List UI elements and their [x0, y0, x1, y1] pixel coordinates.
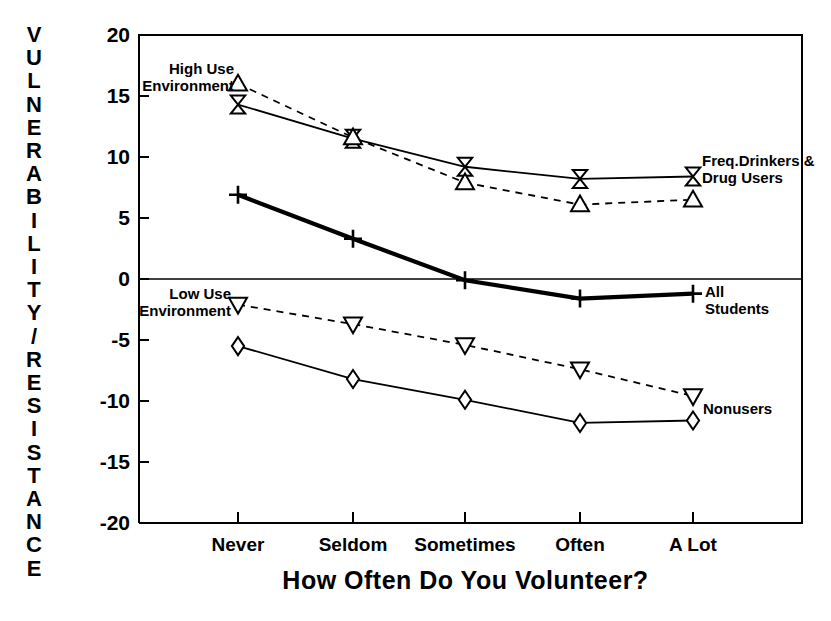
data-point-triangle-down-marker	[684, 389, 702, 405]
x-tick-label: Never	[212, 534, 265, 555]
data-point-triangle-up-marker	[684, 191, 702, 207]
x-tick-label: A Lot	[669, 534, 718, 555]
annotation-line: High Use	[169, 60, 234, 77]
data-point-plus-marker	[229, 186, 247, 204]
y-axis-label-char: L	[27, 68, 40, 93]
x-tick-label: Often	[555, 534, 605, 555]
y-axis-label-char: N	[26, 92, 42, 117]
y-axis-label-char: A	[26, 486, 42, 511]
y-axis-label-char: U	[26, 45, 42, 70]
y-axis-label-char: I	[31, 208, 37, 233]
data-point-diamond-marker	[232, 337, 244, 355]
y-axis-label-char: S	[27, 440, 42, 465]
annotation-line: Freq.Drinkers &	[702, 152, 815, 169]
y-tick-label: 20	[107, 23, 130, 46]
annotation-line: Environment	[142, 77, 234, 94]
y-axis-label-char: B	[26, 184, 42, 209]
y-axis-label-char: C	[26, 532, 42, 557]
x-tick-label: Seldom	[319, 534, 388, 555]
y-axis-label-char: I	[31, 254, 37, 279]
y-axis-label-char: S	[27, 393, 42, 418]
x-axis-title: How Often Do You Volunteer?	[282, 566, 648, 594]
data-point-plus-marker	[684, 285, 702, 303]
data-point-plus-marker	[456, 271, 474, 289]
y-axis-label-char: Y	[27, 300, 42, 325]
line-chart: VULNERABILITY/RESISTANCE 20151050-5-10-1…	[0, 0, 831, 621]
data-point-plus-marker	[344, 230, 362, 248]
y-axis-label-char: R	[26, 138, 42, 163]
annotation-label: Nonusers	[703, 400, 772, 417]
y-axis-label: VULNERABILITY/RESISTANCE	[26, 22, 42, 581]
data-point-diamond-marker	[574, 414, 586, 432]
series-4	[229, 298, 702, 405]
y-tick-label: -15	[100, 450, 131, 473]
y-axis-label-char: E	[27, 556, 42, 581]
annotation-label: High UseEnvironment	[142, 60, 234, 94]
data-point-diamond-marker	[687, 412, 699, 430]
y-axis-label-char: E	[27, 115, 42, 140]
series-2	[229, 75, 702, 212]
annotation-label: AllStudents	[705, 283, 769, 317]
y-tick-label: 0	[118, 267, 130, 290]
data-point-plus-marker	[571, 290, 589, 308]
y-tick-label: 15	[107, 84, 131, 107]
chart-container: VULNERABILITY/RESISTANCE 20151050-5-10-1…	[0, 0, 831, 621]
series-line	[238, 346, 693, 423]
y-axis-label-char: L	[27, 231, 40, 256]
annotation-label: Freq.Drinkers &Drug Users	[702, 152, 815, 186]
y-axis-label-char: E	[27, 370, 42, 395]
annotation-label: Low UseEnvironment	[139, 285, 231, 319]
x-axis-ticks: NeverSeldomSometimesOftenA Lot	[212, 512, 718, 555]
y-tick-label: -5	[111, 328, 130, 351]
y-axis-label-char: /	[31, 324, 37, 349]
series-3	[229, 186, 702, 308]
series-group	[229, 75, 702, 432]
y-axis-label-char: A	[26, 161, 42, 186]
annotation-line: Drug Users	[702, 169, 783, 186]
y-axis-label-char: V	[27, 22, 42, 47]
data-point-diamond-marker	[459, 391, 471, 409]
data-point-bowtie-marker	[231, 96, 245, 114]
y-axis-label-char: R	[26, 347, 42, 372]
annotation-line: Nonusers	[703, 400, 772, 417]
x-axis-title-group: How Often Do You Volunteer?	[282, 566, 648, 594]
data-point-triangle-up-marker	[571, 196, 589, 212]
annotation-line: Students	[705, 300, 769, 317]
x-tick-label: Sometimes	[414, 534, 515, 555]
y-tick-label: 10	[107, 145, 130, 168]
annotation-line: Environment	[139, 302, 231, 319]
y-axis-label-char: I	[31, 416, 37, 441]
data-point-diamond-marker	[347, 370, 359, 388]
annotation-line: Low Use	[169, 285, 231, 302]
annotation-line: All	[705, 283, 724, 300]
y-axis-label-char: T	[27, 463, 41, 488]
y-axis-label-char: T	[27, 277, 41, 302]
y-tick-label: -20	[100, 511, 130, 534]
y-tick-label: -10	[100, 389, 130, 412]
y-axis-label-char: N	[26, 509, 42, 534]
y-tick-label: 5	[118, 206, 130, 229]
